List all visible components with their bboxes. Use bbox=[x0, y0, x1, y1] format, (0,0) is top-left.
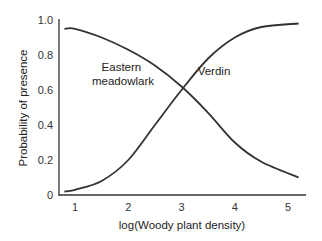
label-verdin: Verdin bbox=[198, 65, 231, 77]
x-tick-label: 3 bbox=[178, 201, 184, 213]
x-axis-title: log(Woody plant density) bbox=[119, 219, 246, 231]
x-tick-label: 1 bbox=[72, 201, 78, 213]
x-tick-label: 4 bbox=[232, 201, 238, 213]
y-tick-label: 1.0 bbox=[38, 14, 53, 26]
plot-curves bbox=[64, 24, 298, 192]
y-tick-label: 0.6 bbox=[38, 84, 53, 96]
y-tick-label: 0.8 bbox=[38, 49, 53, 61]
chart: 00.20.40.60.81.0 12345 Probability of pr… bbox=[0, 0, 322, 241]
curve-verdin bbox=[64, 24, 298, 192]
label-eastern-line2: meadowlark bbox=[92, 75, 154, 87]
x-tick-label: 2 bbox=[125, 201, 131, 213]
y-tick-label: 0.4 bbox=[38, 119, 53, 131]
curve-eastern-meadowlark bbox=[64, 28, 298, 177]
y-axis-title: Probability of presence bbox=[17, 50, 29, 167]
label-eastern-line1: Eastern bbox=[102, 61, 142, 73]
x-tick-label: 5 bbox=[285, 201, 291, 213]
label-eastern-meadowlark: Eastern meadowlark bbox=[92, 61, 154, 87]
x-tick-labels: 12345 bbox=[72, 201, 291, 213]
y-tick-labels: 00.20.40.60.81.0 bbox=[38, 14, 53, 201]
y-tick-label: 0 bbox=[47, 189, 53, 201]
y-tick-label: 0.2 bbox=[38, 154, 53, 166]
